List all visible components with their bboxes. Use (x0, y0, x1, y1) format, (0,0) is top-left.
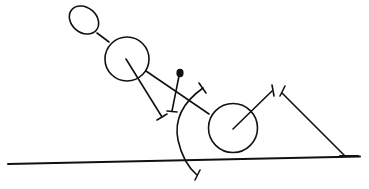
torso-inner-line (126, 59, 162, 117)
torso-line-end-tick (157, 114, 167, 120)
wheel-spoke (233, 91, 272, 129)
pendulum-end-tick (167, 111, 177, 112)
arc-bottom-tick (195, 170, 200, 180)
neck-line (97, 33, 109, 42)
support-line (282, 93, 344, 155)
diagram-canvas (0, 0, 369, 189)
torso-circle (105, 37, 149, 81)
arc-top-tick (199, 83, 206, 93)
wheel-spoke-tick (272, 85, 274, 96)
pendulum-dot (176, 69, 183, 77)
diagram-svg (0, 0, 369, 189)
